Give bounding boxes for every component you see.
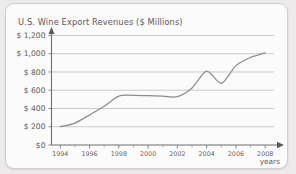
- x-tick-label: 2006: [228, 150, 244, 158]
- chart-card: U.S. Wine Export Revenues ($ Millions) $…: [5, 3, 288, 169]
- y-tick-label: $ 1,200: [17, 31, 46, 40]
- x-tick-label: 2004: [199, 150, 215, 158]
- y-tick-label: $ 1,000: [17, 49, 46, 58]
- y-axis-arrow-icon: [49, 27, 55, 34]
- y-tick-label: $ 600: [24, 86, 46, 95]
- x-axis-caption: years: [260, 157, 280, 166]
- x-axis-tick-labels: 19941996199820002002200420062008: [52, 150, 273, 158]
- x-tick-label: 1994: [52, 150, 68, 158]
- y-tick-label: $ 400: [24, 104, 46, 113]
- y-tick-label: $ 800: [24, 68, 46, 77]
- y-tick-label: $0: [36, 141, 46, 150]
- x-tick-label: 2002: [169, 150, 185, 158]
- x-tick-label: 1996: [81, 150, 97, 158]
- y-tick-label: $ 200: [24, 122, 46, 131]
- x-axis-arrow-icon: [277, 142, 284, 148]
- gridlines: [52, 35, 275, 126]
- y-axis-tick-labels: $0$ 200$ 400$ 600$ 800$ 1,000$ 1,200: [17, 31, 46, 150]
- x-tick-label: 2000: [140, 150, 156, 158]
- chart-plot: $0$ 200$ 400$ 600$ 800$ 1,000$ 1,200 199…: [6, 4, 288, 169]
- screenshot-root: U.S. Wine Export Revenues ($ Millions) $…: [0, 0, 296, 174]
- x-tick-label: 1998: [111, 150, 127, 158]
- revenue-series-line: [60, 53, 265, 127]
